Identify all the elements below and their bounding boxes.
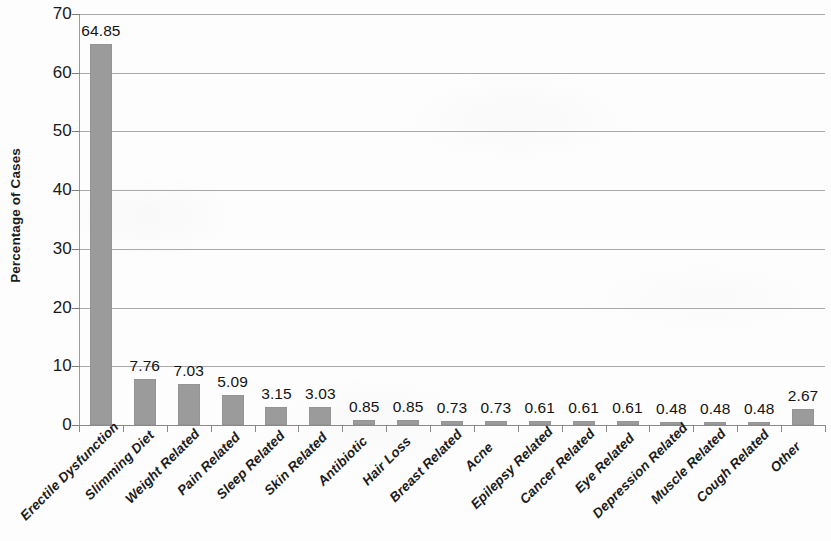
x-axis-category-label[interactable]: Cancer Related xyxy=(516,426,597,507)
bar[interactable] xyxy=(529,421,551,425)
bar-value-label: 3.15 xyxy=(261,385,292,403)
y-axis-tick-label: 0 xyxy=(32,415,72,435)
bar-value-label: 2.67 xyxy=(788,387,819,405)
y-axis-tickmark xyxy=(72,249,80,250)
y-axis-tick-label: 20 xyxy=(32,298,72,318)
x-axis-tickmark xyxy=(211,425,212,432)
x-axis-tickmark xyxy=(255,425,256,432)
bar-value-label: 7.76 xyxy=(130,357,161,375)
y-axis-title-text: Percentage of Cases xyxy=(8,148,23,283)
bar-value-label: 3.03 xyxy=(305,385,336,403)
y-axis-tick-labels: 010203040506070 xyxy=(28,0,72,541)
x-axis-tickmark xyxy=(825,425,826,432)
x-axis-tickmark xyxy=(342,425,343,432)
x-axis-category-label[interactable]: Other xyxy=(767,439,803,475)
y-axis-tickmark xyxy=(72,131,80,132)
y-axis-tickmark xyxy=(72,308,80,309)
y-axis-tickmark xyxy=(72,190,80,191)
x-axis-tickmark xyxy=(167,425,168,432)
bar[interactable] xyxy=(573,421,595,425)
bar-value-label: 0.61 xyxy=(612,399,643,417)
bar[interactable] xyxy=(222,395,244,425)
x-axis-tickmark xyxy=(79,425,80,432)
x-axis-tickmark xyxy=(562,425,563,432)
gridline xyxy=(79,73,825,74)
x-axis-tickmark xyxy=(693,425,694,432)
x-axis-category-label[interactable]: Epilepsy Related xyxy=(467,424,555,512)
gridline xyxy=(79,131,825,132)
x-axis-category-label[interactable]: Acne xyxy=(462,440,496,474)
x-axis-tickmark xyxy=(474,425,475,432)
bar[interactable] xyxy=(485,421,507,425)
bar[interactable] xyxy=(441,421,463,425)
bar-value-label: 5.09 xyxy=(217,373,248,391)
x-axis-tickmark xyxy=(649,425,650,432)
x-axis-tickmark xyxy=(737,425,738,432)
y-axis-tickmark xyxy=(72,73,80,74)
bar-value-label: 0.48 xyxy=(700,400,731,418)
x-axis-tickmark xyxy=(606,425,607,432)
bar-value-label: 0.85 xyxy=(349,398,380,416)
bar[interactable] xyxy=(353,420,375,425)
y-axis-tick-label: 70 xyxy=(32,4,72,24)
x-axis-tickmark xyxy=(781,425,782,432)
x-axis-tickmark xyxy=(518,425,519,432)
y-axis-tick-label: 30 xyxy=(32,239,72,259)
x-axis-tickmark xyxy=(123,425,124,432)
y-axis-title: Percentage of Cases xyxy=(2,0,28,430)
bar-value-label: 0.85 xyxy=(393,398,424,416)
bar[interactable] xyxy=(265,407,287,425)
bar[interactable] xyxy=(748,422,770,425)
bar-chart: Percentage of Cases 010203040506070 Erec… xyxy=(0,0,831,541)
y-axis-tick-label: 40 xyxy=(32,180,72,200)
bar[interactable] xyxy=(309,407,331,425)
bar-value-label: 0.48 xyxy=(744,400,775,418)
bar[interactable] xyxy=(704,422,726,425)
bar-value-label: 64.85 xyxy=(81,22,120,40)
bar[interactable] xyxy=(178,384,200,425)
y-axis-tick-label: 10 xyxy=(32,356,72,376)
bar[interactable] xyxy=(90,44,112,425)
gridline xyxy=(79,308,825,309)
bar-value-label: 7.03 xyxy=(173,362,204,380)
y-axis-tickmark xyxy=(72,366,80,367)
x-axis-tickmark xyxy=(430,425,431,432)
y-axis-tick-label: 60 xyxy=(32,63,72,83)
gridline xyxy=(79,14,825,15)
bar-value-label: 0.73 xyxy=(481,399,512,417)
bar[interactable] xyxy=(792,409,814,425)
bar-value-label: 0.61 xyxy=(524,399,555,417)
bar[interactable] xyxy=(397,420,419,425)
bar-value-label: 0.73 xyxy=(437,399,468,417)
bar[interactable] xyxy=(617,421,639,425)
x-axis-tickmark xyxy=(386,425,387,432)
bar-value-label: 0.61 xyxy=(568,399,599,417)
bar-value-label: 0.48 xyxy=(656,400,687,418)
y-axis-tick-label: 50 xyxy=(32,121,72,141)
gridline xyxy=(79,190,825,191)
bar[interactable] xyxy=(134,379,156,425)
gridline xyxy=(79,249,825,250)
y-axis-tickmark xyxy=(72,14,80,15)
x-axis-tickmark xyxy=(298,425,299,432)
